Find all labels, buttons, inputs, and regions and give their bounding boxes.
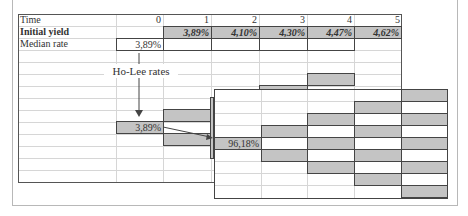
front-tree-node[interactable]	[307, 137, 355, 150]
front-tree-node[interactable]	[401, 185, 448, 198]
ho-lee-label: Ho-Lee rates	[104, 64, 178, 78]
front-tree-node[interactable]	[354, 149, 402, 162]
front-tree-node[interactable]	[261, 125, 308, 138]
front-tree-node[interactable]	[354, 101, 402, 114]
front-root-cell[interactable]: 96,18%	[214, 137, 262, 150]
front-tree-node[interactable]	[354, 125, 402, 138]
front-tree-node[interactable]	[401, 89, 448, 102]
front-tree-node[interactable]	[307, 113, 355, 126]
front-tree-node[interactable]	[307, 161, 355, 174]
front-tree-node[interactable]	[401, 113, 448, 126]
front-tree-node[interactable]	[261, 149, 308, 162]
front-tree-node[interactable]	[401, 161, 448, 174]
front-tree-node[interactable]	[401, 137, 448, 150]
front-tree-node[interactable]	[354, 173, 402, 186]
